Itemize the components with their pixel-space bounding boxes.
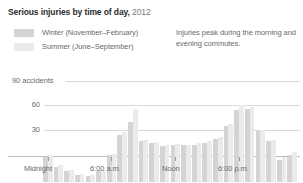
bar-group <box>54 102 64 182</box>
bar-summer <box>154 142 159 182</box>
bar-summer <box>207 141 212 182</box>
xtick-label-noon: Noon <box>162 164 180 173</box>
bar-summer <box>69 170 74 182</box>
ytick-label-60: 60 <box>26 100 40 109</box>
xtick-label-midnight: Midnight <box>24 164 52 173</box>
xtick-noon <box>175 157 176 161</box>
chart-plot-area: 90 accidents 60 30 Midnight 6:00 a.m. No… <box>0 0 303 182</box>
xtick-6am <box>111 157 112 161</box>
chart-page: Serious injuries by time of day, 2012 Wi… <box>0 0 303 182</box>
bar-group <box>64 102 74 182</box>
bar-summer <box>80 174 85 182</box>
bar-summer <box>133 109 138 182</box>
bar-group <box>181 102 191 182</box>
bar-summer <box>197 143 202 182</box>
bar-summer <box>143 140 148 183</box>
bar-summer <box>122 132 127 182</box>
bar-group <box>266 102 276 182</box>
bar-group <box>128 102 138 182</box>
ytick-label-90: 90 accidents <box>12 76 62 85</box>
bar-group <box>149 102 159 182</box>
bar-summer <box>175 144 180 182</box>
bar-summer <box>271 140 276 182</box>
xtick-label-6am: 6:00 a.m. <box>90 164 121 173</box>
bar-summer <box>228 124 233 182</box>
xtick-6pm <box>239 157 240 161</box>
ytick-label-30: 30 <box>26 125 40 134</box>
bar-group <box>256 102 266 182</box>
bar-summer <box>250 107 255 182</box>
bar-group <box>287 102 297 182</box>
xtick-label-6pm: 6:00 p.m. <box>218 164 249 173</box>
bar-summer <box>282 157 287 182</box>
bar-summer <box>90 175 95 182</box>
bar-summer <box>260 130 265 183</box>
bar-summer <box>58 165 63 182</box>
bar-group <box>202 102 212 182</box>
bar-group <box>277 102 287 182</box>
bar-summer <box>292 152 297 182</box>
bar-group <box>139 102 149 182</box>
xtick-midnight <box>48 157 49 161</box>
bar-group <box>75 102 85 182</box>
bar-summer <box>186 145 191 183</box>
bar-summer <box>218 137 223 182</box>
bar-group <box>192 102 202 182</box>
gridline-90 <box>66 81 300 82</box>
